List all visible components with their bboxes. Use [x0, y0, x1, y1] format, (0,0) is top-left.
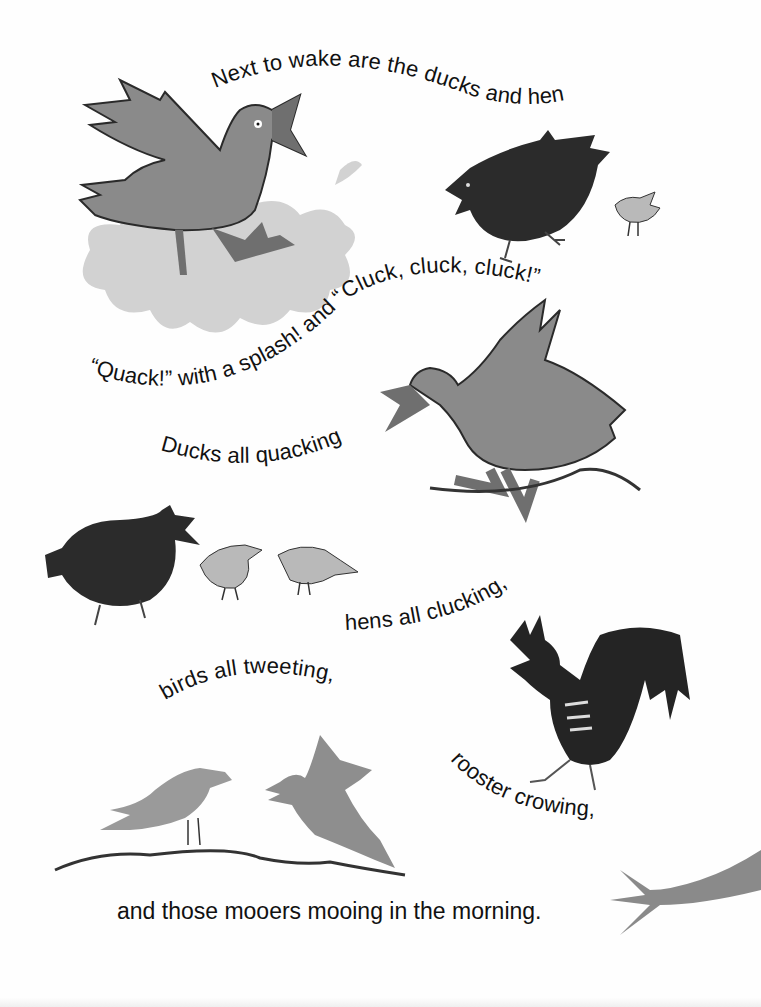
book-page: Next to wake are the ducks and hens— “Qu… [0, 0, 761, 1007]
cow-tail-illustration [610, 850, 761, 935]
verse-line-5: birds all tweeting, [155, 653, 338, 704]
two-songbirds-illustration [55, 735, 405, 875]
duck-on-ground-illustration [380, 300, 640, 510]
rooster-illustration [510, 615, 690, 790]
verse-line-7: and those mooers mooing in the morning. [117, 898, 541, 925]
page-edge-shadow [0, 997, 761, 1007]
illustration-layer: Next to wake are the ducks and hens— “Qu… [0, 0, 761, 1007]
verse-line-1: Next to wake are the ducks and hens— [0, 0, 566, 109]
hen-with-two-chicks-illustration [45, 505, 358, 625]
hen-with-chick-illustration [445, 130, 660, 262]
verse-line-4: hens all clucking, [344, 570, 511, 635]
